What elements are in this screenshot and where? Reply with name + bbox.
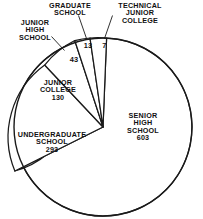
value-junior-high-school: 43 [66,56,82,64]
value-technical-junior-college: 7 [100,42,109,50]
label-graduate-school: GRADUATE SCHOOL [40,2,100,17]
leader-line-graduate-school [79,16,87,39]
value-graduate-school: 13 [82,42,94,50]
label-junior-high-school: JUNIOR HIGH SCHOOL [6,19,64,41]
label-technical-junior-college: TECHNICAL JUNIOR COLLEGE [107,2,173,24]
label-senior-high-school: SENIOR HIGH SCHOOL 603 [116,112,170,141]
label-undergraduate-school: UNDERGRADUATE SCHOOL 293 [10,131,94,153]
pie-chart-figure: GRADUATE SCHOOL JUNIOR HIGH SCHOOL TECHN… [0,0,203,219]
label-junior-college: JUNIOR COLLEGE 130 [30,79,86,101]
